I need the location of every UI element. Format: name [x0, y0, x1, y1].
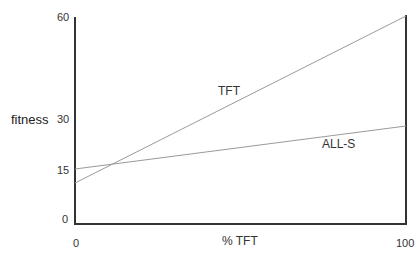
y-axis-label: fitness: [11, 112, 49, 127]
y-tick-15: 15: [57, 164, 69, 176]
series-label-tft: TFT: [218, 84, 240, 98]
y-tick-30: 30: [57, 113, 69, 125]
y-tick-0: 0: [62, 213, 68, 225]
x-tick-100: 100: [396, 237, 414, 249]
series-line-tft: [75, 16, 406, 183]
x-axis-label: % TFT: [222, 234, 258, 248]
x-tick-0: 0: [73, 237, 79, 249]
series-line-all-s: [75, 126, 406, 169]
series-label-all-s: ALL-S: [322, 137, 355, 151]
y-tick-60: 60: [57, 11, 69, 23]
